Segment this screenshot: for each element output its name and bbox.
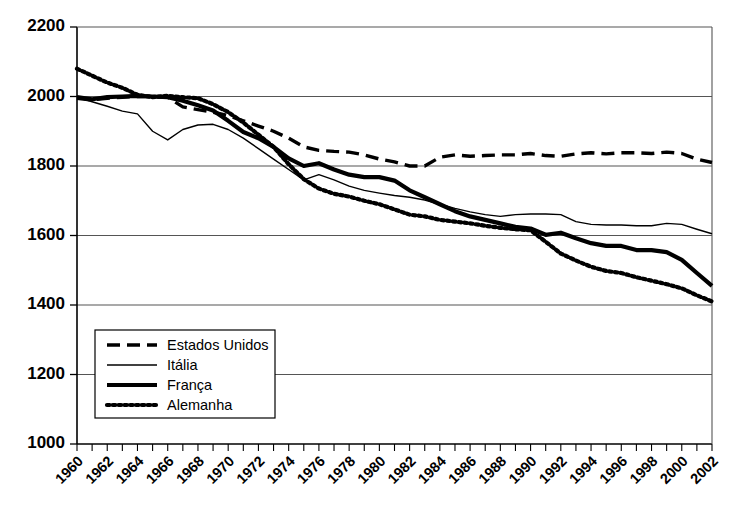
legend-label: Itália <box>167 357 199 373</box>
x-tick-label: 1982 <box>385 453 419 487</box>
x-tick-label: 1990 <box>506 453 540 487</box>
x-tick-label: 2000 <box>657 453 691 487</box>
x-tick-label: 1978 <box>324 453 358 487</box>
data-series <box>77 69 712 302</box>
x-tick-label: 1976 <box>294 453 328 487</box>
x-tick-label: 1964 <box>112 453 146 487</box>
series-line-alemanha <box>77 69 712 302</box>
series-line-fran-a <box>77 96 712 286</box>
x-tick-label: 1972 <box>233 453 267 487</box>
y-axis-ticks: 2200200018001600140012001000 <box>27 16 77 452</box>
y-tick-label: 1000 <box>27 433 65 452</box>
y-tick-label: 1800 <box>27 155 65 174</box>
legend-label: França <box>167 377 213 393</box>
x-tick-label: 1984 <box>415 453 449 487</box>
x-tick-label: 1970 <box>203 453 237 487</box>
chart-legend: Estados UnidosItáliaFrançaAlemanha <box>95 330 275 418</box>
series-line-estados-unidos <box>77 97 712 167</box>
x-tick-label: 1966 <box>143 453 177 487</box>
x-tick-label: 1992 <box>536 453 570 487</box>
y-tick-label: 2000 <box>27 86 65 105</box>
x-axis-ticks: 1960196219641966196819701972197419761978… <box>52 444 721 487</box>
line-chart: 2200200018001600140012001000 19601962196… <box>0 0 745 520</box>
x-tick-label: 1960 <box>52 453 86 487</box>
y-tick-label: 1200 <box>27 364 65 383</box>
x-tick-label: 1962 <box>82 453 116 487</box>
x-tick-label: 1968 <box>173 453 207 487</box>
x-tick-label: 1996 <box>596 453 630 487</box>
x-tick-label: 1980 <box>354 453 388 487</box>
x-tick-label: 1986 <box>445 453 479 487</box>
y-tick-label: 2200 <box>27 16 65 35</box>
y-tick-label: 1600 <box>27 225 65 244</box>
x-tick-label: 1988 <box>475 453 509 487</box>
x-tick-label: 1994 <box>566 453 600 487</box>
chart-container: 2200200018001600140012001000 19601962196… <box>0 0 745 520</box>
legend-label: Estados Unidos <box>167 337 269 353</box>
legend-label: Alemanha <box>167 397 233 413</box>
x-tick-label: 1974 <box>264 453 298 487</box>
y-tick-label: 1400 <box>27 294 65 313</box>
x-tick-label: 2002 <box>687 453 721 487</box>
x-tick-label: 1998 <box>627 453 661 487</box>
